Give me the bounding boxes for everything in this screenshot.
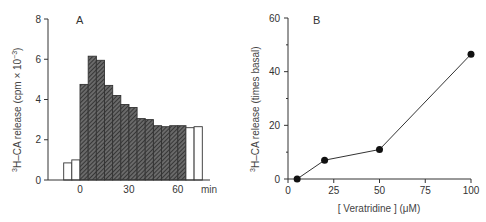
data-point	[321, 157, 328, 164]
bar	[170, 126, 178, 180]
data-point	[294, 176, 301, 183]
y-tick-label: 40	[269, 66, 281, 77]
panel-label-a: A	[76, 14, 84, 26]
y-tick-label: 6	[35, 54, 41, 65]
bar	[72, 160, 80, 180]
x-tick-label: 60	[172, 184, 184, 195]
y-tick-label: 20	[269, 120, 281, 131]
data-point	[468, 51, 475, 58]
bar	[162, 127, 170, 180]
y-ticks: 0204060	[269, 13, 288, 185]
bar	[80, 84, 88, 180]
x-tick-label: 30	[123, 184, 135, 195]
y-tick-label: 0	[274, 174, 280, 185]
x-unit-label: min	[201, 184, 217, 195]
y-axis-label-a: 3H–CA release (cpm × 10−3)	[11, 48, 23, 172]
x-tick-label: 75	[420, 185, 432, 196]
figure: 02468 03060 A min 3H–CA release (cpm × 1…	[0, 0, 486, 222]
y-tick-label: 0	[35, 175, 41, 186]
chart-b: 0204060 0255075100 B [ Veratridine ] (μM…	[249, 13, 480, 215]
x-tick-label: 0	[77, 184, 83, 195]
y-ticks: 02468	[35, 14, 48, 186]
bar	[105, 85, 113, 180]
y-tick-label: 2	[35, 134, 41, 145]
chart-a: 02468 03060 A min 3H–CA release (cpm × 1…	[11, 14, 217, 196]
x-tick-label: 0	[285, 185, 291, 196]
bar	[137, 119, 145, 180]
x-ticks: 03060	[77, 184, 184, 195]
bars	[64, 56, 203, 180]
bar	[153, 126, 161, 180]
bar	[194, 127, 202, 180]
panel-label-b: B	[313, 14, 320, 26]
x-tick-label: 50	[374, 185, 386, 196]
x-tick-label: 25	[328, 185, 340, 196]
x-axis-label-b: [ Veratridine ] (μM)	[338, 203, 420, 214]
bar	[145, 120, 153, 180]
bar	[64, 163, 72, 180]
y-tick-label: 60	[269, 13, 281, 24]
x-tick-label: 100	[463, 185, 480, 196]
data-point	[376, 146, 383, 153]
bar	[113, 96, 121, 181]
y-tick-label: 8	[35, 14, 41, 25]
y-axis-label-b: 3H–CA release (times basal)	[249, 46, 261, 172]
bar	[88, 56, 96, 180]
bar	[186, 128, 194, 180]
x-ticks: 0255075100	[285, 179, 480, 196]
y-tick-label: 4	[35, 94, 41, 105]
bar	[96, 60, 104, 180]
bar	[129, 108, 137, 181]
bar	[121, 105, 129, 181]
bar	[178, 126, 186, 180]
